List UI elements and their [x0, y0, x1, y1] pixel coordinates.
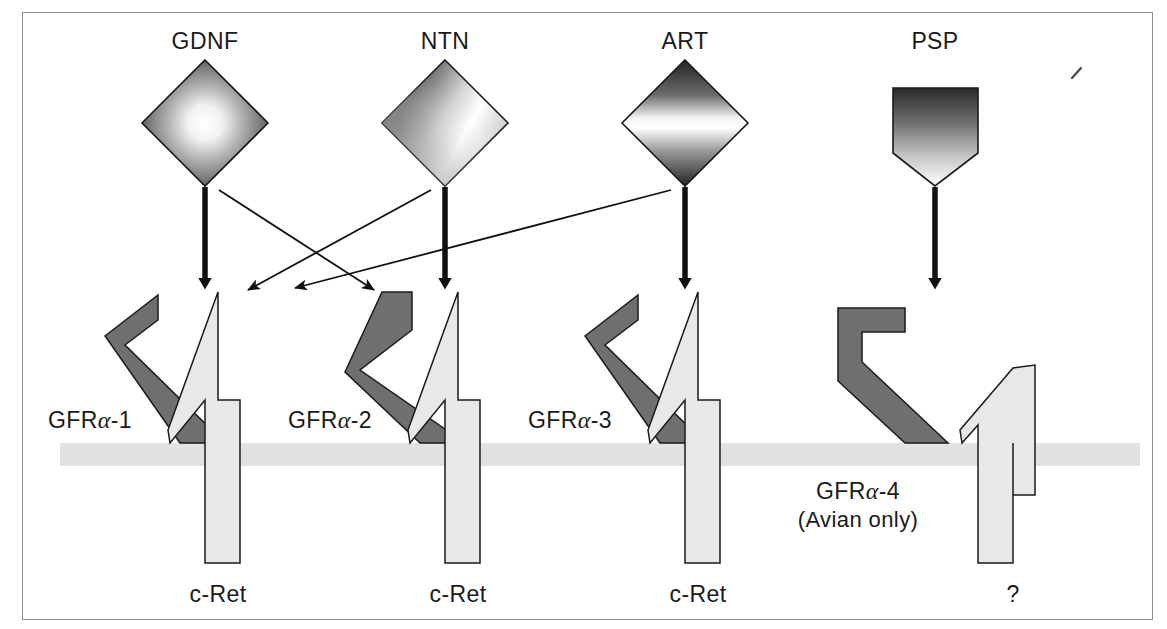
kinase-label-cret-1: c-Ret: [190, 583, 247, 606]
gfra2-suffix: -2: [351, 407, 372, 433]
receptor-label-gfra3: GFRα-3: [528, 408, 612, 432]
gfra2-greek: α: [338, 407, 351, 433]
ligand-label-psp: PSP: [911, 30, 958, 53]
ligand-label-ntn: NTN: [421, 30, 469, 53]
gfra3-prefix: GFR: [528, 407, 578, 433]
receptor-label-gfra4: GFRα-4: [816, 479, 900, 503]
receptor-sublabel-gfra4: (Avian only): [798, 509, 919, 531]
gfra1-greek: α: [98, 407, 111, 433]
ligand-ntn-diamond: [382, 60, 508, 186]
gfra1-prefix: GFR: [48, 407, 98, 433]
diagram-canvas: [0, 0, 1167, 629]
gfra2-prefix: GFR: [288, 407, 338, 433]
gfra4-suffix: -4: [879, 478, 900, 504]
ligand-label-gdnf: GDNF: [172, 30, 239, 53]
arrow-gdnf-to-gfra2: [219, 190, 374, 290]
kinase-label-unknown: ?: [1006, 583, 1019, 606]
gfra4-greek: α: [866, 478, 879, 504]
kinase-label-cret-2: c-Ret: [430, 583, 487, 606]
gfra1-suffix: -1: [111, 407, 132, 433]
figure-root: GDNF NTN ART PSP GFRα-1 GFRα-2 GFRα-3 GF…: [0, 0, 1167, 629]
ligand-art-diamond: [622, 60, 748, 186]
arrow-art-to-gfra1: [295, 190, 671, 288]
ligand-label-art: ART: [662, 30, 709, 53]
ligand-gdnf-diamond: [142, 60, 268, 186]
arrow-ntn-to-gfra1: [248, 190, 431, 290]
gfra3-greek: α: [578, 407, 591, 433]
receptor-label-gfra2: GFRα-2: [288, 408, 372, 432]
gfra4-bent-bracket: [838, 308, 948, 443]
gfra4-prefix: GFR: [816, 478, 866, 504]
receptor-label-gfra1: GFRα-1: [48, 408, 132, 432]
ligand-psp-pentagon: [893, 88, 978, 186]
gfra3-suffix: -3: [591, 407, 612, 433]
stray-mark: [1072, 68, 1081, 78]
kinase-label-cret-3: c-Ret: [670, 583, 727, 606]
